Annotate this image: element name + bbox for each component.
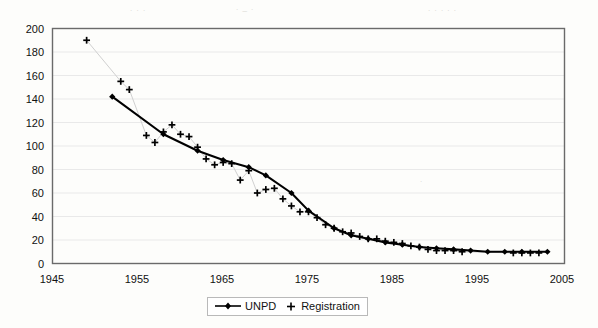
legend-line-diamond-icon: [215, 301, 241, 311]
plot-area: [0, 0, 598, 328]
series-unpd-line: [112, 97, 547, 252]
chart-legend: UNPD Registration: [207, 297, 368, 316]
series-unpd-markers: [109, 94, 550, 255]
series-registration-markers: [83, 37, 542, 256]
legend-label-registration: Registration: [301, 300, 360, 312]
legend-entry-registration: Registration: [285, 300, 360, 312]
legend-label-unpd: UNPD: [245, 300, 276, 312]
legend-plus-icon: [285, 301, 297, 312]
chart-figure: . . . . _ . . . . . . . 200 180 160 140 …: [0, 0, 598, 328]
legend-entry-unpd: UNPD: [215, 300, 276, 312]
